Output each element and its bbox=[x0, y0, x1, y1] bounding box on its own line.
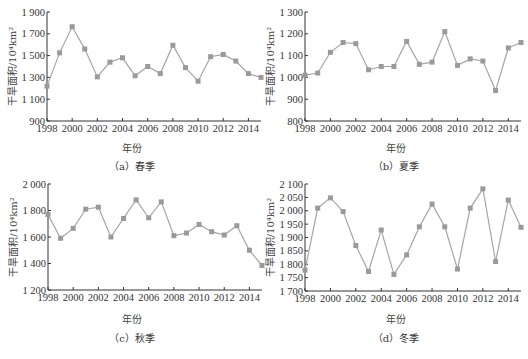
data-point-marker bbox=[171, 233, 176, 238]
chart-panel-winter: 1 7001 7501 8001 8501 9001 9502 0002 050… bbox=[264, 180, 528, 359]
data-point-marker bbox=[480, 59, 485, 64]
x-tick-label: 2006 bbox=[396, 123, 417, 134]
x-tick-label: 2014 bbox=[498, 293, 520, 304]
data-point-marker bbox=[519, 225, 524, 230]
chart-caption: （b）夏季 bbox=[264, 158, 528, 173]
chart-caption: （a）春季 bbox=[0, 158, 264, 173]
x-axis-title: 年份 bbox=[0, 140, 264, 155]
x-tick-label: 2002 bbox=[345, 293, 366, 304]
data-point-marker bbox=[134, 197, 139, 202]
x-tick-label: 1998 bbox=[295, 293, 316, 304]
x-tick-label: 2010 bbox=[188, 123, 209, 134]
data-point-marker bbox=[430, 202, 435, 207]
data-point-marker bbox=[404, 39, 409, 44]
x-tick-label: 2006 bbox=[137, 123, 158, 134]
data-point-marker bbox=[404, 252, 409, 257]
data-point-marker bbox=[328, 50, 333, 55]
axes: 9001 1001 3001 5001 7001 900199820002002… bbox=[7, 7, 261, 135]
data-point-marker bbox=[366, 67, 371, 72]
y-axis-title: 干旱面积/10⁴km² bbox=[8, 197, 19, 277]
x-tick-label: 1998 bbox=[38, 292, 59, 303]
y-tick-label: 1 900 bbox=[279, 232, 303, 243]
x-tick-label: 2010 bbox=[447, 293, 468, 304]
y-tick-label: 1 950 bbox=[279, 219, 303, 230]
x-tick-label: 2004 bbox=[113, 292, 135, 303]
y-tick-label: 1 100 bbox=[279, 50, 303, 61]
series-line bbox=[305, 189, 521, 275]
data-point-marker bbox=[417, 224, 422, 229]
data-point-marker bbox=[468, 56, 473, 61]
series-line bbox=[47, 27, 261, 86]
data-point-marker bbox=[233, 59, 238, 64]
x-tick-label: 2014 bbox=[498, 123, 520, 134]
y-tick-label: 1 400 bbox=[22, 258, 46, 269]
y-tick-label: 2 100 bbox=[279, 179, 303, 190]
x-tick-label: 2006 bbox=[138, 292, 159, 303]
data-point-marker bbox=[234, 223, 239, 228]
data-point-marker bbox=[455, 63, 460, 68]
x-tick-label: 2000 bbox=[62, 123, 83, 134]
data-point-marker bbox=[120, 55, 125, 60]
data-point-marker bbox=[96, 205, 101, 210]
data-point-marker bbox=[197, 222, 202, 227]
data-point-marker bbox=[159, 199, 164, 204]
y-tick-label: 1 900 bbox=[21, 7, 45, 18]
x-tick-label: 2010 bbox=[189, 292, 210, 303]
y-axis-title: 干旱面积/10⁴km² bbox=[265, 27, 276, 107]
data-point-marker bbox=[247, 248, 252, 253]
data-point-marker bbox=[158, 71, 163, 76]
data-point-marker bbox=[246, 71, 251, 76]
x-tick-label: 2010 bbox=[447, 123, 468, 134]
x-tick-label: 2004 bbox=[112, 123, 134, 134]
chart-caption: （c）秋季 bbox=[0, 330, 264, 345]
y-tick-label: 1 300 bbox=[21, 72, 45, 83]
data-point-marker bbox=[391, 272, 396, 277]
x-axis-title: 年份 bbox=[264, 140, 528, 155]
data-point-marker bbox=[107, 60, 112, 65]
data-point-marker bbox=[108, 235, 113, 240]
chart-panel-autumn: 1 2001 4001 6001 8002 000199820002002200… bbox=[0, 180, 264, 359]
x-tick-label: 2000 bbox=[320, 293, 341, 304]
data-point-marker bbox=[366, 269, 371, 274]
x-tick-label: 2006 bbox=[396, 293, 417, 304]
data-point-marker bbox=[133, 73, 138, 78]
x-tick-label: 2014 bbox=[239, 292, 261, 303]
x-tick-label: 2008 bbox=[422, 293, 443, 304]
x-tick-label: 1998 bbox=[295, 123, 316, 134]
x-tick-label: 2012 bbox=[213, 123, 234, 134]
y-tick-label: 1 800 bbox=[22, 205, 46, 216]
data-point-marker bbox=[83, 207, 88, 212]
data-point-marker bbox=[95, 74, 100, 79]
data-point-marker bbox=[353, 243, 358, 248]
y-tick-label: 900 bbox=[287, 94, 303, 105]
data-point-marker bbox=[45, 84, 50, 89]
data-point-marker bbox=[71, 226, 76, 231]
data-point-marker bbox=[145, 64, 150, 69]
data-point-marker bbox=[184, 231, 189, 236]
data-point-marker bbox=[315, 206, 320, 211]
x-axis-title: 年份 bbox=[264, 311, 528, 326]
data-point-marker bbox=[519, 40, 524, 45]
y-tick-label: 1 100 bbox=[21, 94, 45, 105]
data-point-marker bbox=[315, 71, 320, 76]
data-point-marker bbox=[222, 233, 227, 238]
series-line bbox=[48, 200, 262, 266]
y-axis-title: 干旱面积/10⁴km² bbox=[265, 198, 276, 278]
data-point-marker bbox=[391, 64, 396, 69]
x-tick-label: 2002 bbox=[88, 292, 109, 303]
data-point-marker bbox=[506, 198, 511, 203]
chart-panel-summer: 8009001 0001 1001 2001 30019982000200220… bbox=[264, 0, 528, 180]
y-tick-label: 1 800 bbox=[279, 259, 303, 270]
data-point-marker bbox=[430, 60, 435, 65]
x-tick-label: 1998 bbox=[37, 123, 58, 134]
x-tick-label: 2000 bbox=[320, 123, 341, 134]
y-tick-label: 2 000 bbox=[279, 205, 303, 216]
data-point-marker bbox=[341, 209, 346, 214]
data-point-marker bbox=[303, 268, 308, 273]
data-point-marker bbox=[493, 88, 498, 93]
y-tick-label: 1 750 bbox=[279, 272, 303, 283]
x-tick-label: 2008 bbox=[163, 292, 184, 303]
data-point-marker bbox=[493, 259, 498, 264]
data-point-marker bbox=[183, 65, 188, 70]
data-point-marker bbox=[221, 52, 226, 57]
